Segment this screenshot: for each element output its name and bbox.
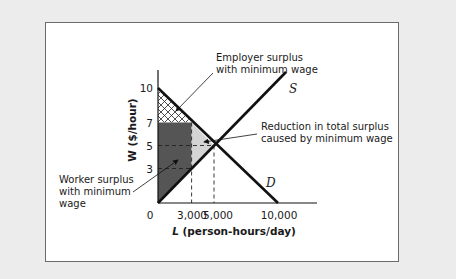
labor-market-diagram: S D 10 7 5 3 0 3,000 5,000 10,000 L (per… <box>0 0 456 279</box>
y-tick-7: 7 <box>146 117 153 129</box>
supply-label: S <box>289 82 297 96</box>
y-tick-10: 10 <box>140 82 153 94</box>
reduction-label: Reduction in total surplus caused by min… <box>261 121 393 144</box>
worker-surplus-label: Worker surplus with minimum wage <box>59 174 137 209</box>
demand-label: D <box>265 176 276 190</box>
x-tick-5000: 5,000 <box>203 209 233 221</box>
x-axis-title: L (person-hours/day) <box>172 225 296 237</box>
y-tick-5: 5 <box>146 140 153 152</box>
employer-surplus-leader <box>176 73 213 111</box>
x-tick-10000: 10,000 <box>261 209 298 221</box>
x-tick-0: 0 <box>147 209 154 221</box>
y-tick-3: 3 <box>146 163 153 175</box>
employer-surplus-label: Employer surplus with minimum wage <box>216 52 318 75</box>
y-axis-title: W ($/hour) <box>126 98 138 161</box>
